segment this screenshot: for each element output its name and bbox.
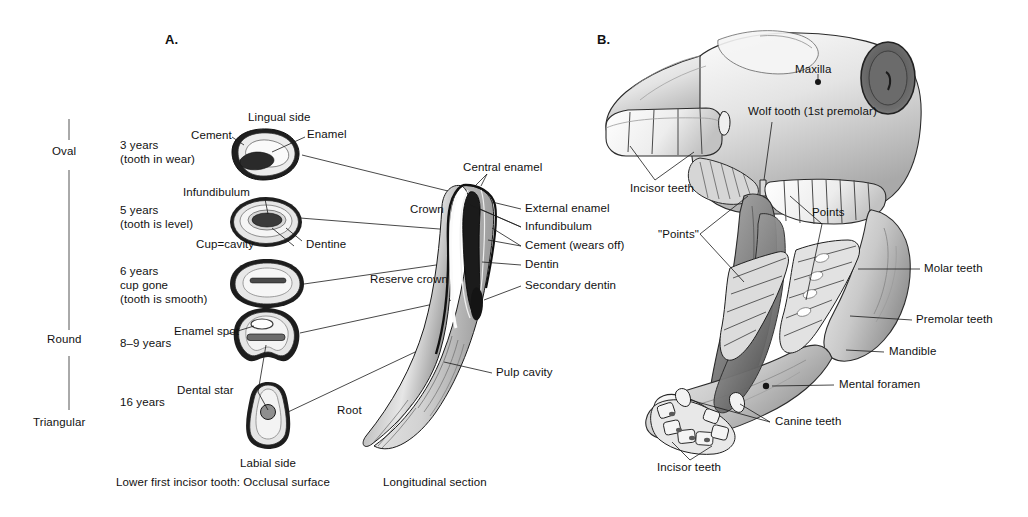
label-lingual-side: Lingual side	[248, 111, 311, 124]
label-mandible: Mandible	[889, 345, 936, 358]
panel-b-letter: B.	[597, 33, 610, 46]
label-external-enamel: External enamel	[525, 202, 610, 215]
age-label-8-9-years: 8–9 years	[120, 337, 171, 350]
longitudinal-caption: Longitudinal section	[383, 476, 487, 489]
label-incisor-teeth-lower: Incisor teeth	[657, 461, 721, 474]
label-incisor-teeth-upper: Incisor teeth	[630, 181, 694, 195]
label-infundibulum-occlusal: Infundibulum	[183, 186, 250, 199]
label-central-enamel: Central enamel	[463, 161, 542, 174]
label-enamel: Enamel	[307, 128, 347, 141]
label-cement: Cement	[191, 129, 232, 142]
label-enamel-spot: Enamel spot	[174, 325, 239, 338]
panel-a-caption: Lower first incisor tooth: Occlusal surf…	[116, 476, 330, 489]
shape-axis-label-round: Round	[47, 333, 81, 346]
occlusal-section-16y	[246, 382, 290, 449]
label-dental-star: Dental star	[177, 384, 234, 397]
label-labial-side: Labial side	[240, 457, 296, 470]
label-pulp-cavity: Pulp cavity	[496, 366, 553, 379]
label-crown: Crown	[410, 203, 444, 216]
label-dentine: Dentine	[306, 238, 346, 251]
age-label-3-years: 3 years	[120, 139, 158, 152]
shape-axis-label-triangular: Triangular	[33, 416, 85, 429]
illustration-layer	[0, 0, 1028, 517]
age-label-6-years: 6 years	[120, 265, 158, 278]
label-cup-cavity: Cup=cavity	[196, 238, 254, 251]
age-note-3-years: (tooth in wear)	[120, 153, 195, 166]
label-mental-foramen: Mental foramen	[839, 378, 920, 391]
age-note-6-years: cup gone	[120, 279, 168, 292]
label-canine-teeth: Canine teeth	[775, 415, 841, 428]
occlusal-section-3y	[232, 129, 299, 180]
label-cement-wears-off: Cement (wears off)	[525, 239, 624, 252]
age-label-5-years: 5 years	[120, 204, 158, 217]
label-points-right: Points	[812, 206, 845, 219]
label-dentin: Dentin	[525, 258, 559, 271]
shape-axis-label-oval: Oval	[52, 145, 76, 158]
label-points-quoted: "Points"	[658, 228, 699, 241]
label-maxilla: Maxilla	[795, 63, 832, 76]
figure-canvas: A. Oval Round Triangular 3 years (tooth …	[0, 0, 1028, 517]
label-reserve-crown: Reserve crown	[370, 272, 430, 286]
label-infundibulum-longitudinal: Infundibulum	[525, 220, 592, 233]
label-root: Root	[337, 404, 362, 417]
occlusal-section-6y	[230, 259, 304, 308]
age-note2-6-years: (tooth is smooth)	[120, 293, 207, 306]
panel-a-letter: A.	[165, 33, 178, 46]
age-label-16-years: 16 years	[120, 396, 165, 409]
label-secondary-dentin: Secondary dentin	[525, 279, 616, 292]
label-molar-teeth: Molar teeth	[924, 262, 983, 275]
label-wolf-tooth: Wolf tooth (1st premolar)	[748, 105, 877, 118]
age-note-5-years: (tooth is level)	[120, 218, 193, 231]
occlusal-section-8y	[234, 308, 300, 361]
label-premolar-teeth: Premolar teeth	[916, 313, 993, 326]
